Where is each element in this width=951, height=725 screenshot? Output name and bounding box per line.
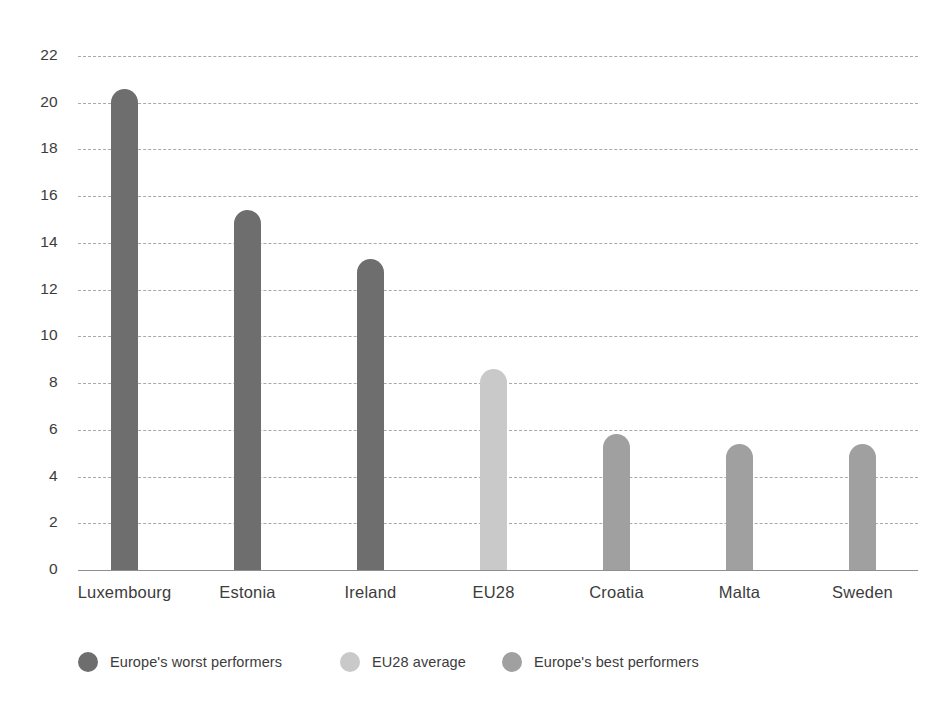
gridline <box>78 103 918 104</box>
x-axis-tick-label: Sweden <box>783 583 943 602</box>
gridline <box>78 149 918 150</box>
y-axis-tick-label: 2 <box>14 513 58 531</box>
gridline <box>78 56 918 57</box>
legend-swatch-icon <box>502 652 522 672</box>
x-axis-line <box>78 570 918 571</box>
bar <box>357 259 384 570</box>
legend-swatch-icon <box>78 652 98 672</box>
bar <box>726 444 753 570</box>
gridline <box>78 196 918 197</box>
legend-label: EU28 average <box>372 654 466 670</box>
gridline <box>78 290 918 291</box>
y-axis-tick-label: 18 <box>14 139 58 157</box>
y-axis-tick-label: 22 <box>14 46 58 64</box>
y-axis-tick-label: 12 <box>14 280 58 298</box>
bar <box>849 444 876 570</box>
y-axis-tick-label: 14 <box>14 233 58 251</box>
bar <box>234 210 261 570</box>
y-axis-tick-label: 20 <box>14 93 58 111</box>
legend-item-worst[interactable]: Europe's worst performers <box>78 648 282 676</box>
legend-label: Europe's best performers <box>534 654 699 670</box>
bar <box>603 434 630 570</box>
gridline <box>78 243 918 244</box>
y-axis-tick-label: 16 <box>14 186 58 204</box>
legend-item-average[interactable]: EU28 average <box>340 648 466 676</box>
legend-swatch-icon <box>340 652 360 672</box>
bar <box>480 369 507 570</box>
y-axis-tick-labels: 0246810121416182022 <box>14 40 58 570</box>
bar-chart: 0246810121416182022 LuxembourgEstoniaIre… <box>0 0 951 725</box>
chart-legend: Europe's worst performersEU28 averageEur… <box>0 648 951 678</box>
y-axis-tick-label: 8 <box>14 373 58 391</box>
plot-area <box>78 40 918 570</box>
legend-label: Europe's worst performers <box>110 654 282 670</box>
y-axis-tick-label: 10 <box>14 326 58 344</box>
bar <box>111 89 138 570</box>
y-axis-tick-label: 6 <box>14 420 58 438</box>
y-axis-tick-label: 4 <box>14 467 58 485</box>
gridline <box>78 336 918 337</box>
x-axis-tick-labels: LuxembourgEstoniaIrelandEU28CroatiaMalta… <box>0 583 951 609</box>
legend-item-best[interactable]: Europe's best performers <box>502 648 699 676</box>
y-axis-tick-label: 0 <box>14 560 58 578</box>
